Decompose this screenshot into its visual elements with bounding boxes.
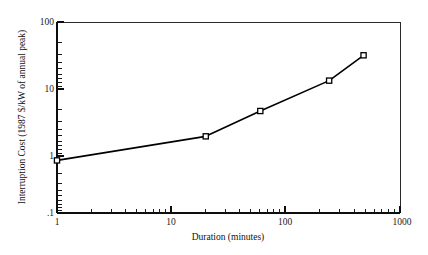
x-tick-label-100: 100 <box>278 217 293 227</box>
y-tick-label-10: 10 <box>45 84 55 94</box>
data-point-marker <box>203 134 208 139</box>
y-axis-major-ticks <box>57 22 64 213</box>
x-axis-major-ticks <box>57 206 400 213</box>
y-tick-label-1: 1 <box>49 151 54 161</box>
x-axis-minor-ticks <box>91 209 394 214</box>
y-axis-minor-ticks <box>57 42 62 210</box>
x-tick-label-1000: 1000 <box>393 217 412 227</box>
y-tick-labels: 100 10 1 .1 <box>40 17 55 218</box>
x-axis-title: Duration (minutes) <box>192 232 265 243</box>
chart-canvas: 100 10 1 .1 1 10 100 1000 Duration (minu… <box>0 0 428 255</box>
data-point-marker <box>327 78 332 83</box>
data-point-marker <box>361 53 366 58</box>
data-series-interruption-cost <box>54 53 366 163</box>
x-tick-labels: 1 10 100 1000 <box>55 217 412 227</box>
plot-frame <box>57 22 400 213</box>
y-tick-label-0.1: .1 <box>47 208 54 218</box>
y-axis-title: Interruption Cost (1987 $/kW of annual p… <box>17 30 28 204</box>
data-point-marker <box>54 158 59 163</box>
data-markers <box>54 53 366 163</box>
x-tick-label-10: 10 <box>166 217 176 227</box>
y-tick-label-100: 100 <box>40 17 55 27</box>
data-line <box>57 55 364 160</box>
chart-figure: 100 10 1 .1 1 10 100 1000 Duration (minu… <box>0 0 428 255</box>
x-tick-label-1: 1 <box>55 217 60 227</box>
data-point-marker <box>258 108 263 113</box>
